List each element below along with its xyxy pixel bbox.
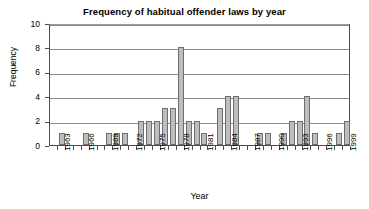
y-tick-label: 6 xyxy=(35,68,40,77)
bar-series xyxy=(50,25,349,145)
x-axis-tick-labels: 1963196619691972197519781981198419871990… xyxy=(49,151,350,187)
x-tick-mark xyxy=(247,146,248,150)
x-tick-mark xyxy=(342,146,343,150)
bar xyxy=(170,108,176,145)
x-tick-mark xyxy=(295,146,296,150)
bar xyxy=(265,133,271,145)
bar xyxy=(217,108,223,145)
x-tick-label: 1975 xyxy=(159,133,167,151)
x-tick-mark xyxy=(200,146,201,150)
x-tick-label: 1978 xyxy=(183,133,191,151)
bar xyxy=(146,121,152,145)
x-tick-mark xyxy=(223,146,224,150)
x-tick-mark xyxy=(310,146,311,150)
bar xyxy=(122,133,128,145)
x-tick-mark xyxy=(271,146,272,150)
x-tick-mark xyxy=(192,146,193,150)
y-tick-label: 2 xyxy=(35,117,40,126)
y-tick-label: 8 xyxy=(35,44,40,53)
x-tick-label: 1999 xyxy=(350,133,358,151)
x-tick-mark xyxy=(215,146,216,150)
x-tick-mark xyxy=(104,146,105,150)
x-tick-mark xyxy=(57,146,58,150)
x-tick-label: 1972 xyxy=(136,133,144,151)
x-tick-label: 1969 xyxy=(112,133,120,151)
y-axis-title: Frequency xyxy=(8,32,18,102)
x-tick-mark xyxy=(263,146,264,150)
bar xyxy=(289,121,295,145)
x-tick-label: 1987 xyxy=(254,133,262,151)
y-tick-label: 0 xyxy=(35,142,40,151)
x-axis-title: Year xyxy=(49,191,350,201)
x-tick-mark xyxy=(176,146,177,150)
x-tick-mark xyxy=(73,146,74,150)
x-tick-mark xyxy=(144,146,145,150)
x-tick-label: 1963 xyxy=(64,133,72,151)
plot-area xyxy=(49,24,350,146)
bar xyxy=(336,133,342,145)
bar xyxy=(178,47,184,145)
y-tick-label: 10 xyxy=(31,20,40,29)
x-tick-mark xyxy=(168,146,169,150)
x-tick-mark xyxy=(239,146,240,150)
x-tick-mark xyxy=(318,146,319,150)
x-tick-label: 1966 xyxy=(88,133,96,151)
x-tick-mark xyxy=(81,146,82,150)
y-axis: Frequency 0246810 xyxy=(0,0,49,209)
bar xyxy=(194,121,200,145)
x-tick-label: 1996 xyxy=(326,133,334,151)
x-tick-mark xyxy=(120,146,121,150)
x-tick-label: 1981 xyxy=(207,133,215,151)
x-tick-mark xyxy=(287,146,288,150)
chart-container: Frequency of habitual offender laws by y… xyxy=(0,0,369,209)
x-tick-mark xyxy=(152,146,153,150)
y-tick-label: 4 xyxy=(35,93,40,102)
x-tick-mark xyxy=(128,146,129,150)
x-tick-label: 1984 xyxy=(231,133,239,151)
bar xyxy=(312,133,318,145)
x-tick-mark xyxy=(97,146,98,150)
chart-title: Frequency of habitual offender laws by y… xyxy=(0,6,369,17)
x-tick-label: 1993 xyxy=(302,133,310,151)
x-tick-mark xyxy=(334,146,335,150)
x-tick-label: 1990 xyxy=(278,133,286,151)
